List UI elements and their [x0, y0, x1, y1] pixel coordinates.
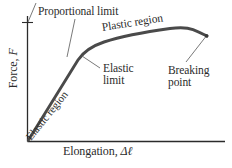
annotation-elastic-limit-line2: limit: [103, 74, 134, 86]
proportional-limit-leader-line-2: [67, 19, 75, 57]
x-axis-label-text: Elongation,: [63, 144, 118, 158]
y-axis-label: Force, F: [7, 35, 20, 101]
annotation-elastic-limit-line1: Elastic: [103, 62, 134, 74]
y-axis-label-symbol: F: [6, 48, 20, 55]
x-axis-label: Elongation, Δℓ: [63, 145, 132, 158]
annotation-breaking-point-line2: point: [168, 76, 209, 88]
annotation-elastic-limit: Elastic limit: [103, 62, 134, 86]
elastic-limit-leader-line: [82, 56, 100, 68]
annotation-breaking-point: Breaking point: [168, 64, 209, 88]
annotation-proportional-limit: Proportional limit: [38, 5, 118, 17]
x-axis-label-symbol: Δℓ: [120, 144, 132, 158]
force-elongation-figure: Proportional limit Plastic region Elasti…: [0, 0, 232, 168]
breaking-point-leader-line: [186, 37, 206, 62]
annotation-breaking-point-line1: Breaking: [168, 64, 209, 76]
proportional-limit-leader-line: [28, 3, 36, 22]
annotation-proportional-limit-label: Proportional limit: [38, 5, 118, 17]
y-axis-label-text: Force,: [6, 59, 20, 89]
